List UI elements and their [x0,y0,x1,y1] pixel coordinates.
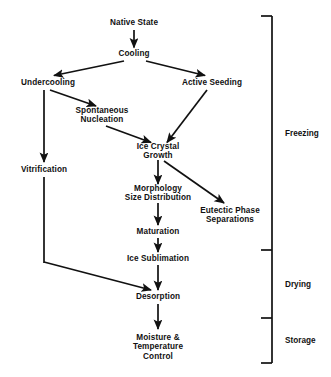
node-spontaneous-nucleation: Spontaneous Nucleation [76,106,129,125]
phase-label-storage: Storage [285,336,315,345]
edge-cooling-to-active-seeding [146,61,205,76]
edge-undercooling-to-spontaneous [50,90,96,106]
node-ice-crystal-growth: Ice Crystal Growth [137,142,180,161]
node-vitrification: Vitrification [21,165,67,174]
node-native-state: Native State [110,18,158,27]
node-eutectic-phase-separations: Eutectic Phase Separations [200,206,260,225]
flowchart-diagram: Native State Cooling Undercooling Active… [0,0,331,377]
node-active-seeding: Active Seeding [182,78,242,87]
node-cooling: Cooling [118,49,149,58]
node-undercooling: Undercooling [21,78,75,87]
node-morphology-size-distribution: Morphology Size Distribution [125,184,191,203]
edge-vitrification-to-desorption [44,262,151,290]
node-ice-sublimation: Ice Sublimation [127,254,189,263]
node-moisture-temperature-control: Moisture & Temperature Control [133,333,183,361]
phase-label-drying: Drying [285,280,311,289]
node-desorption: Desorption [136,292,180,301]
edge-cooling-to-undercooling [54,61,124,76]
edge-seeding-to-ice-growth [167,90,207,143]
node-maturation: Maturation [137,227,180,236]
edge-spontaneous-to-ice-growth [106,126,151,143]
phase-label-freezing: Freezing [285,129,319,138]
